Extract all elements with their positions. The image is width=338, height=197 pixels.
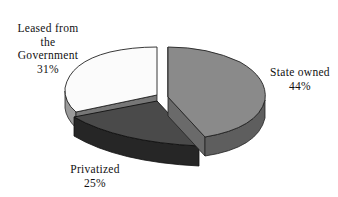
label-state-line1: State owned [262, 66, 338, 80]
label-leased-line3: Government [8, 49, 88, 63]
label-state-owned: State owned 44% [262, 66, 338, 93]
label-state-percent: 44% [262, 80, 338, 94]
label-leased: Leased from the Government 31% [8, 22, 88, 76]
label-privatized: Privatized 25% [60, 163, 130, 190]
label-priv-percent: 25% [60, 177, 130, 191]
pie-chart: Leased from the Government 31% State own… [0, 0, 338, 197]
label-priv-line1: Privatized [60, 163, 130, 177]
label-leased-line2: the [8, 36, 88, 50]
label-leased-line1: Leased from [8, 22, 88, 36]
label-leased-percent: 31% [8, 63, 88, 77]
